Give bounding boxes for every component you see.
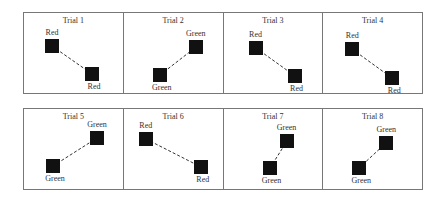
stimulus-square bbox=[153, 68, 167, 82]
stimulus-label: Red bbox=[388, 86, 401, 95]
dashed-connector bbox=[124, 13, 223, 93]
stimulus-square bbox=[263, 161, 277, 175]
stimulus-square bbox=[385, 71, 399, 85]
stimulus-label: Green bbox=[186, 29, 206, 38]
dashed-connector bbox=[24, 13, 123, 93]
stimulus-square bbox=[139, 132, 153, 146]
stimulus-square bbox=[90, 131, 104, 145]
stimulus-label: Red bbox=[88, 82, 101, 91]
stimulus-square bbox=[345, 42, 359, 56]
stimulus-label: Green bbox=[262, 176, 282, 185]
dashed-connector bbox=[224, 13, 323, 93]
stimulus-label: Green bbox=[277, 123, 297, 132]
stimulus-square bbox=[280, 134, 294, 148]
dashed-connector bbox=[323, 13, 422, 93]
trial-panel-4: Trial 4RedRed bbox=[323, 13, 422, 93]
dashed-connector bbox=[323, 109, 422, 189]
trials-row-2: Trial 5GreenGreen Trial 6RedRed Trial 7G… bbox=[23, 108, 423, 190]
trial-panel-2: Trial 2GreenGreen bbox=[124, 13, 224, 93]
stimulus-label: Red bbox=[346, 31, 359, 40]
stimulus-label: Green bbox=[152, 83, 172, 92]
trial-panel-7: Trial 7GreenGreen bbox=[224, 109, 324, 189]
stimulus-square bbox=[85, 67, 99, 81]
stimulus-square bbox=[45, 39, 59, 53]
trials-row-1: Trial 1RedRed Trial 2GreenGreen Trial 3R… bbox=[23, 12, 423, 94]
stimulus-square bbox=[352, 161, 366, 175]
stimulus-square bbox=[249, 41, 263, 55]
stimulus-square bbox=[379, 136, 393, 150]
stimulus-square bbox=[288, 69, 302, 83]
trial-panel-8: Trial 8GreenGreen bbox=[323, 109, 422, 189]
stimulus-label: Red bbox=[139, 121, 152, 130]
stimulus-label: Green bbox=[376, 125, 396, 134]
stimulus-square bbox=[189, 40, 203, 54]
trial-panel-3: Trial 3RedRed bbox=[224, 13, 324, 93]
trial-panel-6: Trial 6RedRed bbox=[124, 109, 224, 189]
stimulus-label: Red bbox=[46, 28, 59, 37]
dashed-connector bbox=[24, 109, 123, 189]
stimulus-label: Green bbox=[45, 174, 65, 183]
stimulus-square bbox=[194, 160, 208, 174]
stimulus-label: Red bbox=[290, 84, 303, 93]
trial-panel-1: Trial 1RedRed bbox=[24, 13, 124, 93]
stimulus-label: Red bbox=[249, 30, 262, 39]
stimulus-label: Green bbox=[87, 120, 107, 129]
trial-panel-5: Trial 5GreenGreen bbox=[24, 109, 124, 189]
stimulus-label: Red bbox=[196, 175, 209, 184]
stimulus-square bbox=[46, 159, 60, 173]
stimulus-label: Green bbox=[351, 176, 371, 185]
